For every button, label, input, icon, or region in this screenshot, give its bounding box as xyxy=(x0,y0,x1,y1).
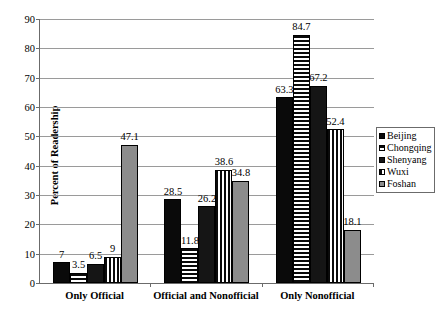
legend-swatch-icon xyxy=(379,133,385,139)
legend-item-shenyang[interactable]: Shenyang xyxy=(379,154,431,166)
y-tick-label: 70 xyxy=(25,72,36,83)
bar-group: 73.56.5947.1 xyxy=(40,19,151,283)
bar-slot: 26.2 xyxy=(198,19,215,283)
bar-value-label: 3.5 xyxy=(72,260,85,271)
bar-slot: 18.1 xyxy=(344,19,361,283)
bar-slot: 47.1 xyxy=(121,19,138,283)
bar-value-label: 11.8 xyxy=(181,236,199,247)
bar-slot: 7 xyxy=(53,19,70,283)
bar-beijing[interactable] xyxy=(53,262,70,283)
bar-beijing[interactable] xyxy=(276,97,293,283)
legend-label: Beijing xyxy=(387,131,416,141)
bar-slot: 11.8 xyxy=(181,19,198,283)
bar-foshan[interactable] xyxy=(232,181,249,283)
legend-item-wuxi[interactable]: Wuxi xyxy=(379,166,431,178)
y-tick-label: 10 xyxy=(25,248,36,259)
y-tick-label: 80 xyxy=(25,43,36,54)
bar-value-label: 38.6 xyxy=(215,157,233,168)
bar-chart: Percent of Readership 010203040506070809… xyxy=(0,0,437,312)
legend-swatch-icon xyxy=(379,181,385,187)
bar-value-label: 63.3 xyxy=(275,85,293,96)
bar-value-label: 34.8 xyxy=(232,168,250,179)
legend-item-chongqing[interactable]: Chongqing xyxy=(379,142,431,154)
legend-swatch-icon xyxy=(379,169,385,175)
x-category-label: Only Official xyxy=(65,290,124,301)
bar-wuxi[interactable] xyxy=(215,170,232,283)
bar-value-label: 18.1 xyxy=(343,217,361,228)
bar-group: 28.511.826.238.634.8 xyxy=(151,19,262,283)
bar-wuxi[interactable] xyxy=(327,129,344,283)
bar-chongqing[interactable] xyxy=(181,248,198,283)
legend-swatch-icon xyxy=(379,157,385,163)
bar-foshan[interactable] xyxy=(121,145,138,283)
bar-shenyang[interactable] xyxy=(87,264,104,283)
bar-chongqing[interactable] xyxy=(70,273,87,283)
bar-slot: 52.4 xyxy=(327,19,344,283)
x-category-label: Only Nonofficial xyxy=(280,290,354,301)
legend-label: Wuxi xyxy=(387,167,409,177)
x-tick-mark xyxy=(373,283,374,287)
bar-value-label: 28.5 xyxy=(164,187,182,198)
bar-beijing[interactable] xyxy=(164,199,181,283)
x-category-label: Official and Nonofficial xyxy=(153,290,259,301)
bar-slot: 63.3 xyxy=(276,19,293,283)
bar-slot: 84.7 xyxy=(293,19,310,283)
bar-shenyang[interactable] xyxy=(310,86,327,283)
bar-slot: 3.5 xyxy=(70,19,87,283)
bar-slot: 67.2 xyxy=(310,19,327,283)
legend-label: Shenyang xyxy=(387,155,426,165)
bar-foshan[interactable] xyxy=(344,230,361,283)
bar-value-label: 6.5 xyxy=(89,251,102,262)
bar-slot: 28.5 xyxy=(164,19,181,283)
y-tick-label: 30 xyxy=(25,190,36,201)
y-tick-label: 60 xyxy=(25,102,36,113)
legend: BeijingChongqingShenyangWuxiFoshan xyxy=(376,127,435,193)
bar-value-label: 52.4 xyxy=(326,117,344,128)
bar-slot: 38.6 xyxy=(215,19,232,283)
bar-wuxi[interactable] xyxy=(104,257,121,283)
bar-slot: 6.5 xyxy=(87,19,104,283)
bar-value-label: 26.2 xyxy=(198,194,216,205)
y-tick-mark xyxy=(36,283,40,284)
plot-area: 0102030405060708090 73.56.5947.128.511.8… xyxy=(39,19,374,284)
bar-value-label: 7 xyxy=(59,250,64,261)
bar-group: 63.384.767.252.418.1 xyxy=(263,19,374,283)
bar-value-label: 84.7 xyxy=(292,22,310,33)
legend-swatch-icon xyxy=(379,145,385,151)
y-tick-label: 0 xyxy=(30,278,35,289)
y-tick-label: 90 xyxy=(25,14,36,25)
bar-shenyang[interactable] xyxy=(198,206,215,283)
bar-value-label: 67.2 xyxy=(309,73,327,84)
x-tick-mark xyxy=(262,283,263,287)
bar-value-label: 47.1 xyxy=(120,132,138,143)
x-tick-mark xyxy=(150,283,151,287)
legend-item-foshan[interactable]: Foshan xyxy=(379,178,431,190)
bar-chongqing[interactable] xyxy=(293,35,310,283)
bar-slot: 34.8 xyxy=(232,19,249,283)
y-tick-label: 20 xyxy=(25,219,36,230)
legend-label: Chongqing xyxy=(387,143,431,153)
legend-item-beijing[interactable]: Beijing xyxy=(379,130,431,142)
bar-slot: 9 xyxy=(104,19,121,283)
y-tick-label: 40 xyxy=(25,160,36,171)
legend-label: Foshan xyxy=(387,179,416,189)
bar-value-label: 9 xyxy=(110,244,115,255)
y-tick-label: 50 xyxy=(25,131,36,142)
